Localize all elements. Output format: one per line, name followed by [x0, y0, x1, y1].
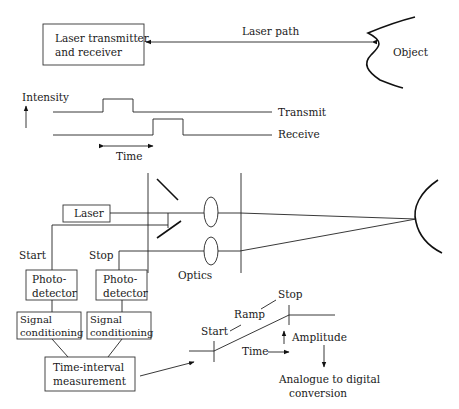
- transmit-lens-icon: [204, 197, 218, 227]
- adc-label-2: conversion: [289, 387, 347, 399]
- transmit-label: Transmit: [278, 106, 327, 118]
- optics-section: Laser Optics Start Stop: [19, 173, 442, 281]
- object-label: Object: [393, 46, 429, 58]
- ramp-leader: [261, 300, 276, 309]
- intensity-label: Intensity: [22, 91, 69, 103]
- amplitude-label: Amplitude: [291, 331, 347, 343]
- timing-section: Intensity Transmit Receive Time: [22, 91, 327, 162]
- start-sc-label-1: Signal: [20, 314, 52, 325]
- stop-sc-to-tim-line: [108, 339, 122, 357]
- tim-to-ramp-arrow-icon: [140, 362, 194, 376]
- tim-label-1: Time-interval: [53, 361, 125, 373]
- ramp-section: Start Ramp Stop Time Amplitude Analogue …: [189, 288, 381, 399]
- transceiver-section: Laser transmitter and receiver Laser pat…: [43, 17, 429, 88]
- start-photodetector-label-2: detector: [32, 287, 78, 299]
- receive-label: Receive: [278, 128, 320, 140]
- electronics-section: Photo- detector Photo- detector Signal c…: [17, 270, 194, 391]
- return-beam-from-object: [240, 219, 416, 251]
- ramp-stop-label: Stop: [278, 288, 303, 300]
- beam-splitter-mirror-icon: [157, 179, 178, 200]
- start-sc-to-tim-line: [52, 339, 68, 357]
- ramp-label: Ramp: [234, 308, 265, 320]
- time-label: Time: [116, 150, 143, 162]
- adc-label-1: Analogue to digital: [278, 373, 381, 385]
- optics-label: Optics: [178, 269, 212, 281]
- start-sc-label-2: conditioning: [20, 327, 84, 338]
- start-signal-line: [52, 225, 168, 270]
- transceiver-label-2: and receiver: [55, 46, 123, 58]
- outgoing-beam-to-object: [240, 213, 416, 219]
- stop-photodetector-label-1: Photo-: [103, 273, 138, 285]
- pickoff-mirror-icon: [157, 221, 181, 238]
- transmit-trace: [53, 99, 272, 112]
- stop-sc-label-2: conditioning: [90, 327, 154, 338]
- stop-sc-label-1: Signal: [90, 314, 122, 325]
- ramp-start-label: Start: [201, 325, 229, 337]
- ramp-time-label: Time: [242, 345, 269, 357]
- receive-trace: [53, 119, 272, 135]
- stop-label: Stop: [89, 249, 114, 261]
- laser-path-label: Laser path: [242, 25, 299, 37]
- stop-photodetector-label-2: detector: [103, 287, 149, 299]
- laser-rangefinder-diagram: Laser transmitter and receiver Laser pat…: [0, 0, 459, 409]
- start-photodetector-label-1: Photo-: [32, 273, 67, 285]
- ramp-start-leader: [230, 325, 241, 331]
- laser-label: Laser: [74, 207, 105, 219]
- transceiver-label-1: Laser transmitter: [55, 32, 150, 44]
- target-surface-icon: [415, 180, 442, 253]
- start-label: Start: [19, 249, 47, 261]
- receive-lens-icon: [204, 237, 218, 265]
- tim-label-2: measurement: [53, 375, 127, 387]
- transceiver-box: [43, 24, 144, 65]
